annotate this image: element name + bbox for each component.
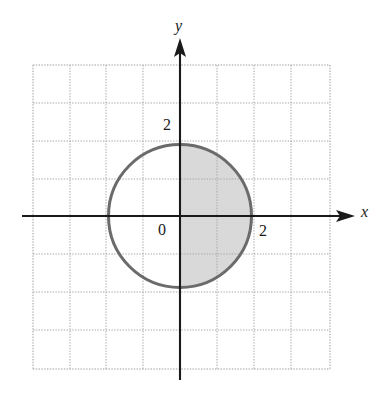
coordinate-plane-plot — [0, 0, 390, 402]
y-axis-name-label: y — [175, 18, 182, 34]
x-axis-tick-label-2: 2 — [259, 223, 267, 239]
x-axis-name-label: x — [361, 204, 368, 220]
origin-label: 0 — [158, 222, 166, 238]
y-axis-tick-label-2: 2 — [163, 117, 171, 133]
figure-container: 2 0 2 x y — [0, 0, 390, 402]
